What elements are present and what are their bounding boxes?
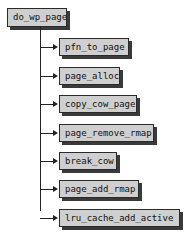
child-node-page-remove-rmap: page_remove_rmap	[59, 124, 154, 142]
child-node-page-alloc: page_alloc	[59, 67, 120, 85]
arrow-icon	[53, 73, 58, 79]
root-node-do-wp-page: do_wp_page	[7, 8, 67, 27]
arrow-icon	[53, 130, 58, 136]
child-node-copy-cow-page: copy_cow_page	[59, 95, 137, 113]
arrow-icon	[53, 158, 58, 164]
child-node-page-add-rmap: page_add_rmap	[59, 180, 139, 198]
arrow-icon	[53, 215, 58, 221]
child-node-lru-cache-add-active: lru_cache_add_active	[59, 209, 180, 227]
child-node-break-cow: break_cow	[59, 152, 117, 170]
arrow-icon	[53, 186, 58, 192]
child-node-pfn-to-page: pfn_to_page	[59, 38, 129, 56]
arrow-icon	[53, 101, 58, 107]
tree-trunk-line	[40, 27, 41, 211]
arrow-icon	[53, 44, 58, 50]
